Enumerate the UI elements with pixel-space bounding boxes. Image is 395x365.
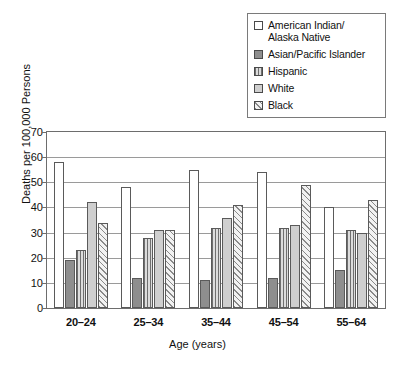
- y-tick-label: 10: [19, 277, 43, 288]
- legend-swatch-light-icon: [254, 84, 263, 93]
- bar-stripe: [211, 228, 221, 308]
- bar-stripe: [279, 228, 289, 308]
- legend-item-dark[interactable]: Asian/Pacific Islander: [254, 48, 380, 60]
- y-tick-mark: [42, 258, 46, 259]
- x-tick-label: 45–54: [254, 316, 314, 328]
- bar-dark: [65, 260, 75, 308]
- y-tick-mark: [42, 233, 46, 234]
- legend-item-light[interactable]: White: [254, 82, 380, 94]
- y-tick-label: 70: [19, 127, 43, 138]
- y-tick-label: 30: [19, 227, 43, 238]
- bar-white: [54, 162, 64, 308]
- x-tick-label: 55–64: [321, 316, 381, 328]
- x-axis-title: Age (years): [0, 338, 395, 350]
- bar-dark: [200, 280, 210, 308]
- bar-stripe: [76, 250, 86, 308]
- y-tick-label: 0: [19, 303, 43, 314]
- bar-light: [290, 225, 300, 308]
- bar-group: [317, 132, 385, 308]
- bar-white: [324, 207, 334, 308]
- bar-group: [182, 132, 250, 308]
- bar-dark: [132, 278, 142, 308]
- y-tick-label: 50: [19, 177, 43, 188]
- bar-group: [47, 132, 115, 308]
- legend-item-label: Hispanic: [268, 65, 307, 77]
- bar-group: [115, 132, 183, 308]
- bar-light: [87, 202, 97, 308]
- legend-item-label: Asian/Pacific Islander: [268, 48, 365, 60]
- legend-swatch-hatch-icon: [254, 101, 263, 110]
- y-tick-label: 40: [19, 202, 43, 213]
- bar-white: [257, 172, 267, 308]
- bar-hatch: [301, 185, 311, 308]
- bar-stripe: [143, 238, 153, 308]
- legend-item-stripe[interactable]: Hispanic: [254, 65, 380, 77]
- bar-hatch: [165, 230, 175, 308]
- bar-light: [154, 230, 164, 308]
- bar-hatch: [98, 223, 108, 308]
- legend-item-label: White: [268, 82, 294, 94]
- bar-dark: [268, 278, 278, 308]
- bar-hatch: [368, 200, 378, 308]
- legend-item-label: American Indian/ Alaska Native: [268, 19, 344, 43]
- legend-item-white[interactable]: American Indian/ Alaska Native: [254, 19, 380, 43]
- bar-white: [121, 187, 131, 308]
- bar-light: [222, 218, 232, 309]
- legend-item-hatch[interactable]: Black: [254, 99, 380, 111]
- bars-layer: [47, 132, 385, 308]
- y-tick-mark: [42, 283, 46, 284]
- bar-hatch: [233, 205, 243, 308]
- y-tick-mark: [42, 132, 46, 133]
- y-tick-mark: [42, 157, 46, 158]
- legend-swatch-dark-icon: [254, 50, 263, 59]
- legend-swatch-stripe-icon: [254, 67, 263, 76]
- legend-swatch-white-icon: [254, 21, 263, 30]
- y-tick-mark: [42, 207, 46, 208]
- legend: American Indian/ Alaska NativeAsian/Paci…: [247, 13, 386, 118]
- bar-light: [357, 233, 367, 308]
- bar-dark: [335, 270, 345, 308]
- bar-white: [189, 170, 199, 308]
- x-tick-label: 20–24: [51, 316, 111, 328]
- x-tick-label: 25–34: [118, 316, 178, 328]
- y-tick-mark: [42, 308, 46, 309]
- y-tick-label: 20: [19, 252, 43, 263]
- legend-item-label: Black: [268, 99, 293, 111]
- bar-group: [250, 132, 318, 308]
- x-tick-label: 35–44: [186, 316, 246, 328]
- y-tick-mark: [42, 182, 46, 183]
- bar-stripe: [346, 230, 356, 308]
- y-tick-label: 60: [19, 152, 43, 163]
